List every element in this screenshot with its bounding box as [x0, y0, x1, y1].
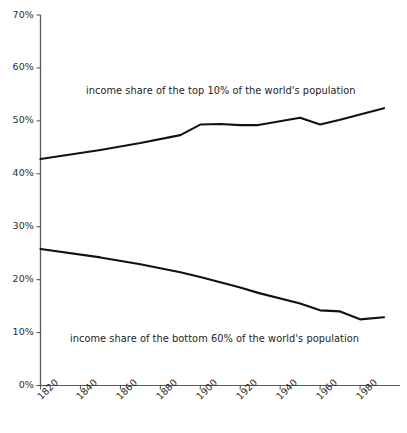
y-axis-tick-label: 10% — [0, 326, 34, 337]
y-axis-tick-label: 0% — [0, 379, 34, 390]
series-line-bottom-60-percent — [41, 249, 385, 319]
top-series-label: income share of the top 10% of the world… — [86, 85, 356, 96]
series-line-top-10-percent — [41, 108, 385, 159]
income-share-line-chart: 0%10%20%30%40%50%60%70% 1820184018601880… — [0, 0, 407, 433]
y-axis-tick-label: 50% — [0, 114, 34, 125]
y-axis-tick-label: 30% — [0, 220, 34, 231]
chart-axes — [40, 15, 400, 386]
y-axis-tick-label: 60% — [0, 61, 34, 72]
y-axis-tick-label: 70% — [0, 9, 34, 20]
chart-plot-area — [0, 0, 407, 433]
y-axis-tick-label: 20% — [0, 273, 34, 284]
bottom-series-label: income share of the bottom 60% of the wo… — [70, 333, 359, 344]
y-axis-tick-label: 40% — [0, 167, 34, 178]
